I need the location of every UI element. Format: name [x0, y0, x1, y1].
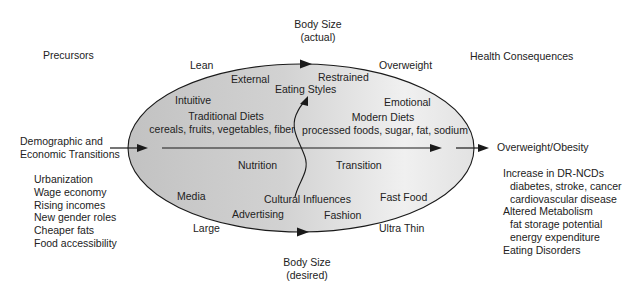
emotional-label: Emotional: [384, 96, 431, 109]
precursor-item: New gender roles: [34, 211, 117, 224]
body-size-desired-title: Body Size (desired): [283, 256, 330, 282]
consequence-item: Eating Disorders: [503, 244, 621, 257]
precursors-heading: Precursors: [43, 49, 94, 62]
consequence-subitem: energy expenditure: [503, 231, 621, 244]
external-label: External: [231, 73, 270, 86]
output-arrowhead-icon: [478, 144, 489, 152]
precursor-item: Urbanization: [34, 173, 117, 186]
demographic-label-line2: Economic Transitions: [20, 148, 120, 161]
eating-styles-label: Eating Styles: [275, 83, 336, 96]
consequence-subitem: diabetes, stroke, cancer: [503, 180, 621, 193]
body-size-desired-line2: (desired): [283, 269, 330, 282]
ultra-thin-label: Ultra Thin: [379, 222, 424, 235]
demographic-transition-label: Demographic and Economic Transitions: [20, 135, 120, 161]
consequence-subitem: fat storage potential: [503, 218, 621, 231]
fashion-label: Fashion: [324, 209, 361, 222]
health-consequences-heading: Health Consequences: [470, 50, 573, 63]
body-size-desired-line1: Body Size: [283, 256, 330, 269]
demographic-label-line1: Demographic and: [20, 135, 120, 148]
large-label: Large: [193, 222, 220, 235]
consequence-subitem: cardiovascular disease: [503, 193, 621, 206]
precursors-list: Urbanization Wage economy Rising incomes…: [34, 173, 117, 250]
lean-label: Lean: [190, 59, 213, 72]
intuitive-label: Intuitive: [175, 94, 211, 107]
nutrition-transition-diagram: Body Size (actual) Body Size (desired) P…: [0, 0, 641, 292]
body-size-actual-line1: Body Size: [294, 18, 341, 31]
precursor-item: Food accessibility: [34, 237, 117, 250]
modern-diets-title: Modern Diets: [352, 111, 414, 124]
modern-diets-foods: processed foods, sugar, fat, sodium: [302, 124, 468, 137]
media-label: Media: [177, 190, 206, 203]
consequence-item: Increase in DR-NCDs: [503, 167, 621, 180]
transition-label: Transition: [336, 159, 382, 172]
body-size-actual-line2: (actual): [294, 31, 341, 44]
overweight-obesity-label: Overweight/Obesity: [497, 141, 589, 154]
precursor-item: Rising incomes: [34, 199, 117, 212]
nutrition-label: Nutrition: [238, 159, 277, 172]
precursor-item: Wage economy: [34, 186, 117, 199]
overweight-label: Overweight: [379, 59, 432, 72]
fast-food-label: Fast Food: [380, 191, 427, 204]
precursor-item: Cheaper fats: [34, 224, 117, 237]
traditional-diets-foods: cereals, fruits, vegetables, fiber: [149, 123, 294, 136]
cultural-influences-label: Cultural Influences: [264, 193, 351, 206]
advertising-label: Advertising: [232, 208, 284, 221]
body-size-actual-title: Body Size (actual): [294, 18, 341, 44]
health-consequences-list: Increase in DR-NCDs diabetes, stroke, ca…: [503, 167, 621, 257]
consequence-item: Altered Metabolism: [503, 205, 621, 218]
traditional-diets-title: Traditional Diets: [188, 110, 263, 123]
